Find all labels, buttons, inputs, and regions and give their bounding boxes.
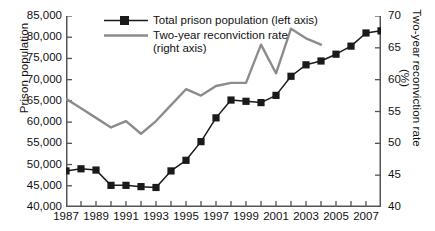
data-point-marker-2000 [257,99,264,106]
data-point-marker-2004 [317,57,324,64]
x-axis-tick-labels: 1987198919911993199519971999200120032005… [0,210,435,230]
y-axis-right-tick-65: 65 [388,42,418,54]
y-axis-left-tick-labels: 40,00045,00050,00055,00060,00065,00070,0… [0,0,62,231]
data-point-marker-2001 [272,92,279,99]
y-axis-right-tick-60: 60 [388,74,418,86]
data-point-marker-2008 [377,27,381,34]
data-point-marker-1988 [77,165,84,172]
data-point-marker-1989 [92,166,99,173]
legend-marker-square-line [104,14,148,27]
legend-item-prison-population: Total prison population (left axis) [104,14,318,27]
legend-label-prison-population: Total prison population (left axis) [153,14,318,27]
data-point-marker-1987 [66,167,70,174]
y-axis-left-tick-65000: 65,000 [4,95,62,107]
data-point-marker-1995 [182,157,189,164]
x-axis-tick-2007: 2007 [346,210,386,222]
y-axis-right-tick-50: 50 [388,137,418,149]
legend-item-reconviction-rate: Two-year reconviction rate (right axis) [104,29,318,55]
y-axis-left-tick-60000: 60,000 [4,116,62,128]
y-axis-left-tick-75000: 75,000 [4,52,62,64]
data-point-marker-2007 [362,29,369,36]
chart-figure: Prison population Two-year reconviction … [0,0,435,231]
legend-label-reconviction-rate-line1: Two-year reconviction rate [153,29,288,41]
data-point-marker-1996 [197,138,204,145]
y-axis-left-tick-45000: 45,000 [4,180,62,192]
y-axis-left-tick-55000: 55,000 [4,137,62,149]
y-axis-right-tick-45: 45 [388,169,418,181]
y-axis-left-tick-50000: 50,000 [4,159,62,171]
data-point-marker-1998 [227,96,234,103]
chart-legend: Total prison population (left axis) Two-… [104,14,318,57]
legend-label-reconviction-rate: Two-year reconviction rate (right axis) [153,29,288,55]
y-axis-right-tick-55: 55 [388,106,418,118]
data-point-marker-1997 [212,114,219,121]
data-point-marker-1990 [107,182,114,189]
y-axis-right-tick-labels: 40455055606570 [388,0,428,231]
y-axis-left-tick-80000: 80,000 [4,31,62,43]
data-point-marker-2006 [347,43,354,50]
data-point-marker-1992 [137,183,144,190]
y-axis-left-tick-85000: 85,000 [4,10,62,22]
data-point-marker-2002 [287,73,294,80]
data-point-marker-2003 [302,61,309,68]
data-point-marker-1993 [152,184,159,191]
data-point-marker-1994 [167,167,174,174]
legend-label-reconviction-rate-line2: (right axis) [153,42,288,55]
y-axis-left-tick-70000: 70,000 [4,74,62,86]
data-point-marker-2005 [332,51,339,58]
data-point-marker-1991 [122,182,129,189]
legend-marker-gray-line [104,29,148,42]
y-axis-right-tick-70: 70 [388,10,418,22]
data-point-marker-1999 [242,98,249,105]
